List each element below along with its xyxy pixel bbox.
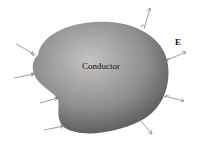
electric-field-label: E [175,37,181,47]
conductor-shape [33,22,169,134]
conductor-diagram [0,0,199,145]
conductor-label: Conductor [82,61,120,71]
